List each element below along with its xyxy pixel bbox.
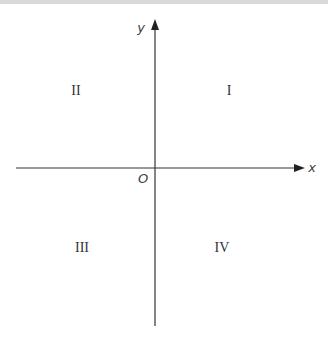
y-axis-label: y <box>137 20 145 35</box>
quadrant-iii-label: III <box>75 240 89 256</box>
coordinate-plane-diagram: y x O I II III IV <box>0 0 328 339</box>
quadrant-i-label: I <box>227 83 232 99</box>
axes-graphic <box>0 0 328 339</box>
quadrant-iv-label: IV <box>215 240 230 256</box>
x-axis-label: x <box>308 160 316 175</box>
y-axis-arrow-icon <box>151 19 159 30</box>
origin-label: O <box>138 171 148 186</box>
quadrant-ii-label: II <box>71 83 80 99</box>
x-axis-arrow-icon <box>294 164 305 172</box>
